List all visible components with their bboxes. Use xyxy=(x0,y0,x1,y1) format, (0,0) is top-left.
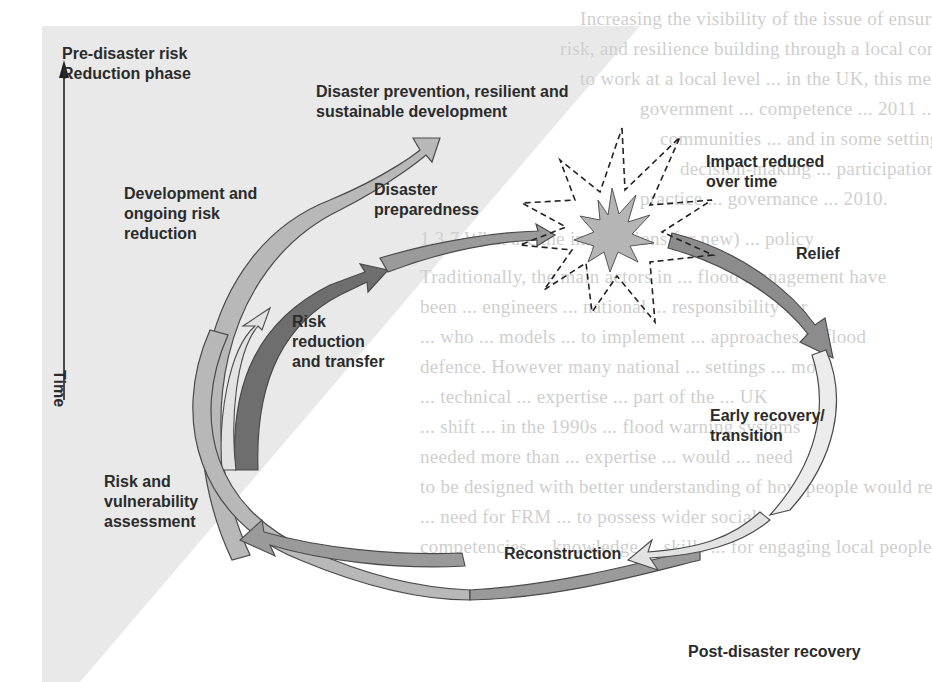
label-line: Development and xyxy=(124,184,257,204)
time-axis-label: Time xyxy=(50,370,68,407)
label-line: Post-disaster recovery xyxy=(688,642,861,662)
label-line: sustainable development xyxy=(316,102,569,122)
label-line: Disaster xyxy=(374,180,479,200)
label-reconstruction: Reconstruction xyxy=(504,544,621,564)
preparedness-arrow xyxy=(234,224,555,470)
label-line: over time xyxy=(706,172,824,192)
label-line: reduction xyxy=(124,224,257,244)
label-disaster-prevention: Disaster prevention, resilient and susta… xyxy=(316,82,569,122)
label-early-recovery: Early recovery/ transition xyxy=(710,406,825,446)
label-line: reduction xyxy=(292,332,384,352)
label-line: ongoing risk xyxy=(124,204,257,224)
label-risk-assessment: Risk and vulnerability assessment xyxy=(104,472,198,532)
label-line: transition xyxy=(710,426,825,446)
label-line: Risk and xyxy=(104,472,198,492)
phase-title-post-disaster: Post-disaster recovery xyxy=(688,642,861,662)
title-line: Pre-disaster risk xyxy=(62,44,191,64)
label-line: Disaster prevention, resilient and xyxy=(316,82,569,102)
impact-starburst xyxy=(520,128,713,322)
label-line: assessment xyxy=(104,512,198,532)
label-line: Reconstruction xyxy=(504,544,621,564)
phase-title-pre-disaster: Pre-disaster risk Reduction phase xyxy=(62,44,191,84)
label-risk-reduction: Risk reduction and transfer xyxy=(292,312,384,372)
title-line: Reduction phase xyxy=(62,64,191,84)
label-line: Early recovery/ xyxy=(710,406,825,426)
label-line: Relief xyxy=(796,244,840,264)
label-development: Development and ongoing risk reduction xyxy=(124,184,257,244)
disaster-management-cycle-diagram: Increasing the visibility of the issue o… xyxy=(0,0,932,682)
label-line: and transfer xyxy=(292,352,384,372)
label-relief: Relief xyxy=(796,244,840,264)
label-impact-reduced: Impact reduced over time xyxy=(706,152,824,192)
label-line: vulnerability xyxy=(104,492,198,512)
label-line: preparedness xyxy=(374,200,479,220)
label-line: Impact reduced xyxy=(706,152,824,172)
label-disaster-preparedness: Disaster preparedness xyxy=(374,180,479,220)
time-axis-arrow xyxy=(59,60,69,400)
label-line: Risk xyxy=(292,312,384,332)
